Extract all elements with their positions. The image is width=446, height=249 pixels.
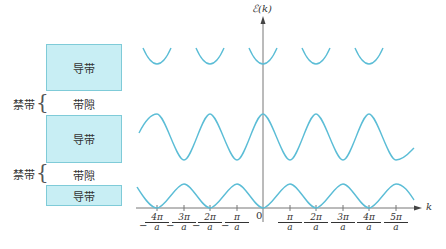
tick-label: 2πa [304,213,328,233]
tick-label: 5πa [384,213,408,233]
y-axis-arrow-icon [261,16,266,24]
tick-label: 3πa [331,213,355,233]
x-axis-arrow-icon [414,206,422,211]
tick-label: 2πa [198,213,222,233]
dispersion-plot [0,0,446,249]
origin-label: 0 [256,210,262,221]
x-axis-label: k [426,201,432,212]
tick-label: πa [278,213,302,233]
bottom-band-curve [137,184,414,208]
tick-label: πa [225,213,249,233]
tick-label: 4πa [357,213,381,233]
middle-band-curve [139,114,414,160]
y-axis-label: ℰ(k) [252,3,272,14]
